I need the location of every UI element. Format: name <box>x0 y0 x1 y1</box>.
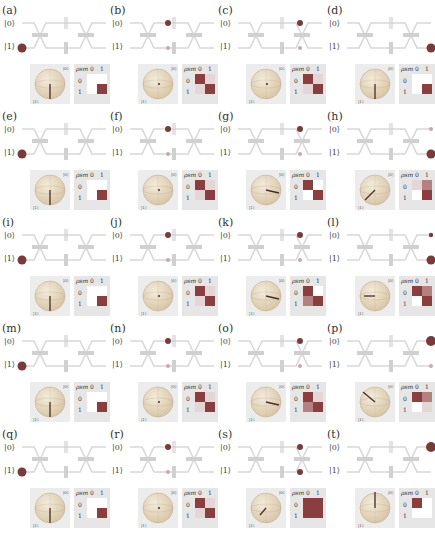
phase-shifter-top <box>172 441 176 453</box>
rho-title: ρsm <box>292 489 304 496</box>
rho-row-label: 0 <box>403 77 407 84</box>
interferometer <box>128 226 214 272</box>
photon-ghost <box>166 152 170 156</box>
photon <box>165 338 171 344</box>
svg-text:|1⟩: |1⟩ <box>249 417 255 422</box>
rho-row-label: 0 <box>294 183 298 190</box>
panel-o: (o) |0⟩ |1⟩ |0⟩ |1⟩ ρsm 0 1 0 1 <box>216 322 324 428</box>
ket0-label: |0⟩ <box>220 125 231 134</box>
svg-text:|0⟩: |0⟩ <box>388 66 394 71</box>
rho-row-label: 0 <box>186 77 190 84</box>
panel-label: (b) <box>110 4 126 17</box>
rho-row-label: 1 <box>403 300 407 307</box>
photon-ghost <box>429 364 433 368</box>
bloch-sphere: |0⟩ |1⟩ <box>355 64 395 104</box>
photon-ghost <box>166 258 170 262</box>
photon-ghost <box>166 470 170 474</box>
svg-text:|0⟩: |0⟩ <box>171 384 177 389</box>
rho-row-label: 0 <box>294 289 298 296</box>
rho-row-label: 1 <box>294 512 298 519</box>
ket1-label: |1⟩ <box>112 360 123 369</box>
photon <box>18 362 27 371</box>
rho-col-label: 1 <box>100 65 104 72</box>
rho-cell <box>303 286 313 296</box>
panel-label: (l) <box>327 216 339 229</box>
density-matrix: ρsm 0 1 0 1 <box>399 64 435 104</box>
phase-shifter-top <box>280 123 284 135</box>
rho-row-label: 1 <box>294 406 298 413</box>
svg-text:|0⟩: |0⟩ <box>171 278 177 283</box>
phase-shifter-top <box>280 441 284 453</box>
phase-shifter-top <box>389 335 393 347</box>
rho-cell <box>412 392 422 402</box>
ket1-label: |1⟩ <box>4 148 15 157</box>
rho-col-label: 1 <box>208 489 212 496</box>
rho-col-label: 0 <box>415 489 419 496</box>
rho-cell <box>412 508 422 518</box>
rho-title: ρsm <box>401 489 413 496</box>
beam-splitter-2 <box>403 245 419 249</box>
ket1-label: |1⟩ <box>220 254 231 263</box>
beam-splitter-2 <box>294 139 310 143</box>
ket0-label: |0⟩ <box>112 337 123 346</box>
phase-shifter-top <box>64 441 68 453</box>
photon-ghost <box>166 364 170 368</box>
rho-cell <box>97 84 107 94</box>
phase-shifter-bottom <box>172 360 176 372</box>
rho-row-label: 0 <box>403 183 407 190</box>
svg-text:|0⟩: |0⟩ <box>279 172 285 177</box>
bloch-sphere: |0⟩ |1⟩ <box>246 488 286 528</box>
photon <box>297 444 303 450</box>
bloch-sphere: |0⟩ |1⟩ <box>355 488 395 528</box>
rho-title: ρsm <box>292 383 304 390</box>
rho-col-label: 1 <box>208 383 212 390</box>
bloch-sphere-icon: |0⟩ |1⟩ <box>138 382 178 422</box>
rho-title: ρsm <box>401 277 413 284</box>
panel-s: (s) |0⟩ |1⟩ |0⟩ |1⟩ ρsm 0 1 0 1 <box>216 428 324 534</box>
svg-text:|1⟩: |1⟩ <box>358 311 364 316</box>
rho-cell <box>97 74 107 84</box>
rho-cell <box>87 84 97 94</box>
phase-shifter-bottom <box>280 42 284 54</box>
beam-splitter-1 <box>140 33 156 37</box>
panel-h: (h) |0⟩ |1⟩ |0⟩ |1⟩ ρsm 0 1 0 1 <box>325 110 433 216</box>
rho-cell <box>313 286 323 296</box>
phase-shifter-top <box>280 17 284 29</box>
rho-cell <box>97 498 107 508</box>
rho-cell <box>87 74 97 84</box>
rho-row-label: 0 <box>186 183 190 190</box>
phase-shifter-bottom <box>172 466 176 478</box>
bloch-sphere: |0⟩ |1⟩ <box>355 276 395 316</box>
rho-cell <box>313 190 323 200</box>
beam-splitter-1 <box>248 33 264 37</box>
phase-shifter-bottom <box>389 42 393 54</box>
photon <box>18 150 27 159</box>
phase-shifter-bottom <box>172 148 176 160</box>
beam-splitter-1 <box>140 245 156 249</box>
ket1-label: |1⟩ <box>112 42 123 51</box>
svg-text:|0⟩: |0⟩ <box>279 278 285 283</box>
photon <box>18 44 27 53</box>
phase-shifter-top <box>389 17 393 29</box>
phase-shifter-top <box>172 17 176 29</box>
ket1-label: |1⟩ <box>329 360 340 369</box>
photon <box>297 232 303 238</box>
beam-splitter-2 <box>403 351 419 355</box>
panel-label: (p) <box>327 322 343 335</box>
ket0-label: |0⟩ <box>4 231 15 240</box>
rho-row-label: 0 <box>78 77 82 84</box>
rho-row-label: 0 <box>403 501 407 508</box>
beam-splitter-2 <box>294 33 310 37</box>
rho-row-label: 1 <box>186 512 190 519</box>
rho-row-label: 1 <box>403 406 407 413</box>
interferometer <box>236 332 322 378</box>
panel-p: (p) |0⟩ |1⟩ |0⟩ |1⟩ ρsm 0 1 0 1 <box>325 322 433 428</box>
rho-col-label: 1 <box>316 489 320 496</box>
phase-shifter-bottom <box>172 42 176 54</box>
panel-l: (l) |0⟩ |1⟩ |0⟩ |1⟩ ρsm 0 1 0 1 <box>325 216 433 322</box>
panel-c: (c) |0⟩ |1⟩ |0⟩ |1⟩ ρsm 0 1 0 1 <box>216 4 324 110</box>
interferometer <box>128 120 214 166</box>
photon <box>297 20 303 26</box>
density-matrix: ρsm 0 1 0 1 <box>74 170 110 210</box>
rho-cell <box>97 180 107 190</box>
